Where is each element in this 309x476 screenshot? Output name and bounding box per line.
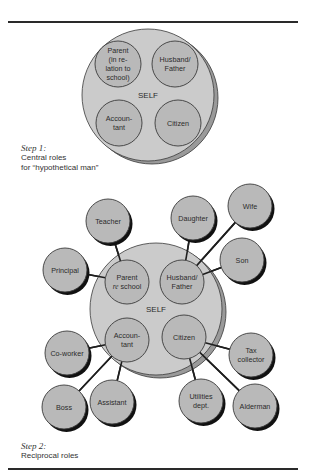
step2-reciprocal-son-label-line-1: Son (236, 256, 249, 265)
step1-role-parent-label-line-2: (in re- (109, 55, 128, 64)
step2-role-parent-label-line-1: Parent (116, 273, 137, 282)
step2-reciprocal-utilities-dept-label-line-2: dept. (193, 401, 209, 410)
step1-self-circle-label: SELF (138, 91, 158, 100)
step2-reciprocal-teacher-label-line-1: Teacher (95, 217, 121, 226)
step1-role-accountant-label-line-1: Accoun- (106, 114, 133, 123)
step2-reciprocal-roles-diagram: SELFParentre schoolHusband/FatherAccoun-… (42, 184, 280, 432)
step2-role-husband-father-label-line-2: Father (172, 282, 193, 291)
step2-reciprocal-assistant-label-line-1: Assistant (97, 398, 126, 407)
step2-self-circle-label: SELF (146, 305, 166, 314)
step1-role-parent-label-line-4: school) (106, 73, 129, 82)
step1-role-accountant-label-line-2: tant (113, 123, 125, 132)
step2-role-husband-father-label-line-1: Husband/ (167, 273, 198, 282)
step1-caption-line-1: Central roles (21, 153, 98, 163)
step2-caption-line-1: Reciprocal roles (21, 451, 78, 461)
step2-reciprocal-wife-label-line-1: Wife (243, 202, 257, 211)
step2-role-accountant-label-line-1: Accoun- (114, 331, 141, 340)
step2-reciprocal-tax-collector-label-line-2: collector (238, 355, 265, 364)
step1-role-parent-label-line-1: Parent (107, 46, 128, 55)
step1-role-parent-label-line-3: lation to (105, 64, 130, 73)
step2-reciprocal-alderman-label-line-1: Alderman (240, 402, 271, 411)
step1-role-husband-father-label-line-2: Father (165, 64, 186, 73)
step2-role-citizen-label-line-1: Citizen (173, 333, 195, 342)
step1-role-husband-father-label-line-1: Husband/ (160, 55, 191, 64)
step1-caption-title: Step 1: (21, 143, 98, 153)
step2-reciprocal-boss-label-line-1: Boss (56, 403, 72, 412)
step2-caption: Step 2: Reciprocal roles (21, 441, 78, 461)
step2-role-parent-label-line-2: re school (113, 282, 142, 291)
role-diagram: SELFParent(in re-lation toschool)Husband… (0, 0, 309, 476)
step1-caption-line-2: for “hypothetical man” (21, 163, 98, 173)
step2-reciprocal-co-worker-label-line-1: Co-worker (50, 349, 84, 358)
step1-central-roles-diagram: SELFParent(in re-lation toschool)Husband… (82, 29, 218, 164)
step2-caption-title: Step 2: (21, 441, 78, 451)
step2-reciprocal-utilities-dept-label-line-1: Utilities (189, 392, 213, 401)
bottom-rule (8, 468, 298, 470)
step2-reciprocal-daughter-label-line-1: Daughter (178, 214, 208, 223)
step2-reciprocal-tax-collector-label-line-1: Tax (245, 346, 257, 355)
step1-role-citizen-label-line-1: Citizen (167, 119, 189, 128)
step2-role-accountant-label-line-2: tant (121, 340, 133, 349)
step1-caption: Step 1: Central roles for “hypothetical … (21, 143, 98, 173)
step2-reciprocal-principal-label-line-1: Principal (51, 266, 79, 275)
